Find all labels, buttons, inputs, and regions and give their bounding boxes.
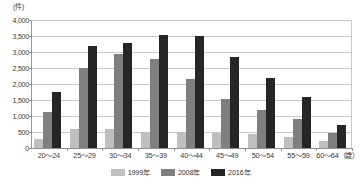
legend-label: 1999年: [128, 167, 150, 177]
legend-item[interactable]: 2008年: [161, 167, 200, 177]
bar-1: [328, 133, 337, 148]
bar-2: [159, 35, 168, 148]
bars-layer: [31, 20, 352, 148]
x-tick-mark: [245, 148, 246, 151]
legend-item[interactable]: 1999年: [111, 167, 150, 177]
bar-0: [248, 134, 257, 148]
y-tick-label: 1,500: [0, 97, 29, 104]
x-axis-category-labels: 20～2425～2930～3435～3940～4445～4950～5455～59…: [31, 150, 352, 164]
bar-2: [337, 125, 346, 148]
bar-2: [52, 92, 61, 148]
x-tick-label: 60～64（歳）: [316, 150, 352, 160]
y-tick-label: 500: [0, 129, 29, 136]
bar-group: [316, 20, 352, 148]
bar-2: [266, 78, 275, 148]
legend-label: 2016年: [228, 167, 250, 177]
x-tick-label: 50～54: [245, 150, 281, 160]
bar-1: [114, 54, 123, 148]
bar-1: [79, 68, 88, 148]
x-tick-label: 20～24: [31, 150, 67, 160]
bar-0: [141, 132, 150, 148]
x-tick-mark: [138, 148, 139, 151]
bar-group: [174, 20, 210, 148]
chart-legend: 1999年2008年2016年: [0, 167, 361, 177]
bar-group: [67, 20, 103, 148]
x-tick-label: 40～44: [174, 150, 210, 160]
x-tick-label: 45～49: [209, 150, 245, 160]
bar-0: [212, 133, 221, 148]
bar-group: [209, 20, 245, 148]
y-tick-label: 2,000: [0, 81, 29, 88]
bar-group: [31, 20, 67, 148]
legend-item[interactable]: 2016年: [211, 167, 250, 177]
bar-1: [43, 112, 52, 148]
bar-group: [138, 20, 174, 148]
bar-0: [177, 132, 186, 148]
bar-group: [102, 20, 138, 148]
y-tick-label: 4,000: [0, 17, 29, 24]
bar-2: [88, 46, 97, 148]
x-tick-label: 55～59: [281, 150, 317, 160]
bar-2: [230, 57, 239, 148]
bar-group: [281, 20, 317, 148]
bar-0: [319, 141, 328, 148]
legend-swatch-icon: [161, 169, 175, 176]
y-tick-label: 1,000: [0, 113, 29, 120]
bar-1: [221, 99, 230, 148]
bar-1: [150, 59, 159, 148]
bar-0: [34, 139, 43, 148]
bar-1: [293, 119, 302, 148]
x-tick-mark: [316, 148, 317, 151]
x-tick-label: 35～39: [138, 150, 174, 160]
x-tick-mark: [352, 148, 353, 151]
bar-0: [284, 137, 293, 148]
x-tick-mark: [281, 148, 282, 151]
bar-0: [105, 129, 114, 148]
x-axis-line: [31, 148, 352, 149]
legend-swatch-icon: [211, 169, 225, 176]
bar-2: [302, 97, 311, 148]
bar-2: [195, 36, 204, 148]
y-tick-label: 2,500: [0, 65, 29, 72]
bar-chart: (件) 4,0003,5003,0002,5002,0001,5001,0005…: [0, 0, 361, 190]
bar-1: [186, 79, 195, 148]
bar-0: [70, 129, 79, 148]
x-tick-mark: [174, 148, 175, 151]
bar-group: [245, 20, 281, 148]
legend-label: 2008年: [178, 167, 200, 177]
x-tick-mark: [67, 148, 68, 151]
legend-swatch-icon: [111, 169, 125, 176]
x-tick-label: 30～34: [102, 150, 138, 160]
x-tick-mark: [102, 148, 103, 151]
y-tick-label: 3,000: [0, 49, 29, 56]
x-tick-label: 25～29: [67, 150, 103, 160]
y-axis-tick-labels: 4,0003,5003,0002,5002,0001,5001,0005000: [0, 0, 29, 190]
x-tick-mark: [209, 148, 210, 151]
bar-2: [123, 43, 132, 148]
y-tick-label: 0: [0, 145, 29, 152]
y-tick-label: 3,500: [0, 33, 29, 40]
bar-1: [257, 110, 266, 148]
